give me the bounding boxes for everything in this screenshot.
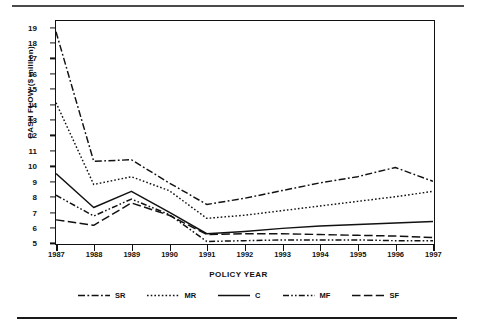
y-axis-tick-label: 8	[11, 193, 37, 202]
y-axis-tick-label: 11	[11, 146, 37, 155]
y-axis-tick-label: 13	[11, 116, 37, 125]
y-axis-tick-label: 5	[11, 239, 37, 248]
top-rule	[12, 5, 464, 7]
y-axis-tick-label: 12	[11, 131, 37, 140]
legend-swatch-c	[218, 291, 250, 300]
series-lines	[56, 21, 433, 243]
x-axis-label: POLICY YEAR	[0, 270, 477, 279]
y-axis-tick-label: 9	[11, 177, 37, 186]
y-axis-tick-label: 19	[11, 23, 37, 32]
legend-item-c[interactable]: C	[218, 291, 260, 300]
legend-label-mr: MR	[184, 291, 196, 300]
chart-figure: CASH FLOW ($ million) 567891011121314151…	[0, 0, 477, 330]
legend-item-mf[interactable]: MF	[283, 291, 331, 300]
y-axis-tick-label: 18	[11, 38, 37, 47]
legend-item-sf[interactable]: SF	[352, 291, 399, 300]
plot-area	[55, 20, 435, 245]
y-axis-tick-label: 14	[11, 100, 37, 109]
y-axis-tick-label: 15	[11, 85, 37, 94]
legend-swatch-mf	[283, 291, 315, 300]
legend-label-c: C	[255, 291, 260, 300]
legend-label-sf: SF	[389, 291, 399, 300]
legend-item-mr[interactable]: MR	[147, 291, 196, 300]
bottom-rule	[17, 317, 457, 319]
series-line-sr	[56, 32, 433, 205]
y-axis-tick-label: 7	[11, 208, 37, 217]
series-line-mf	[56, 195, 433, 241]
x-axis-tick-label: 1997	[410, 250, 456, 259]
chart-legend: SRMRCMFSF	[0, 291, 477, 300]
y-axis-tick-label: 10	[11, 162, 37, 171]
y-axis-tick-label: 17	[11, 54, 37, 63]
legend-swatch-mr	[147, 291, 179, 300]
legend-swatch-sr	[78, 291, 110, 300]
legend-label-mf: MF	[320, 291, 331, 300]
legend-swatch-sf	[352, 291, 384, 300]
legend-item-sr[interactable]: SR	[78, 291, 125, 300]
y-axis-tick-label: 6	[11, 223, 37, 232]
y-axis-tick-label: 16	[11, 69, 37, 78]
legend-label-sr: SR	[115, 291, 125, 300]
series-line-c	[56, 174, 433, 234]
